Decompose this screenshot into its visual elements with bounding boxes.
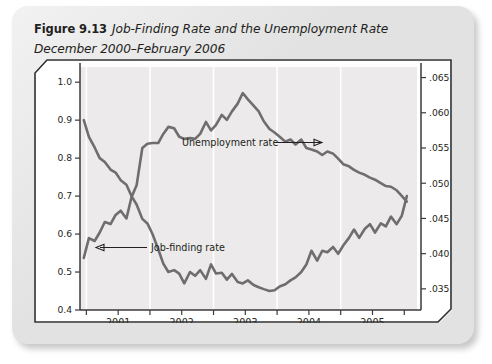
annotation-label-unemployment: Unemployment rate: [182, 137, 278, 148]
plot-background: [80, 67, 417, 310]
y-tick-label-left-0.7: 0.7: [57, 190, 72, 201]
y-tick-label-right-.045: .045: [429, 213, 450, 224]
x-tick-label-2001: 2001: [106, 317, 130, 323]
y-tick-label-right-.040: .040: [429, 248, 450, 259]
figure-card: Figure 9.13 Job-Finding Rate and the Une…: [12, 6, 474, 344]
y-axis-left-ticks: 0.40.50.60.70.80.91.0: [57, 76, 80, 315]
annotation-label-job-finding: Job-finding rate: [150, 242, 225, 253]
y-tick-label-left-0.6: 0.6: [57, 228, 72, 239]
y-axis-right-ticks: .035.040.045.050.055.060.065: [421, 72, 450, 294]
x-tick-label-2004: 2004: [297, 317, 321, 323]
x-tick-label-2003: 2003: [233, 317, 257, 323]
y-tick-label-left-1.0: 1.0: [57, 76, 72, 87]
x-tick-label-2005: 2005: [360, 317, 384, 323]
y-tick-label-right-.065: .065: [429, 72, 450, 83]
y-tick-label-right-.060: .060: [429, 107, 450, 118]
chart-canvas: 0.40.50.60.70.80.91.0 .035.040.045.050.0…: [34, 59, 452, 323]
y-tick-label-left-0.4: 0.4: [57, 304, 72, 315]
figure-label: Figure 9.13: [34, 22, 107, 36]
x-axis-ticks: 20012002200320042005: [86, 310, 404, 323]
y-tick-label-left-0.5: 0.5: [57, 266, 72, 277]
x-tick-label-2002: 2002: [170, 317, 194, 323]
y-tick-label-left-0.8: 0.8: [57, 152, 72, 163]
y-tick-label-right-.055: .055: [429, 142, 450, 153]
y-tick-label-left-0.9: 0.9: [57, 114, 72, 125]
figure-caption: Figure 9.13 Job-Finding Rate and the Une…: [34, 18, 454, 59]
y-tick-label-right-.035: .035: [429, 283, 450, 294]
y-tick-label-right-.050: .050: [429, 178, 450, 189]
